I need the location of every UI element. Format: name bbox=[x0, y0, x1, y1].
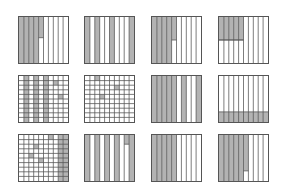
grid-model-g8 bbox=[218, 75, 269, 123]
grid-model-g3 bbox=[151, 16, 202, 64]
grid-model-g2 bbox=[84, 16, 135, 64]
grid-model-g6 bbox=[84, 75, 135, 123]
grid-model-g10 bbox=[84, 134, 135, 182]
grid-model-g1 bbox=[18, 16, 69, 64]
grid-model-g11 bbox=[151, 134, 202, 182]
grid-model-g12 bbox=[218, 134, 269, 182]
grid-model-g7 bbox=[151, 75, 202, 123]
grid-model-g9 bbox=[18, 134, 69, 182]
grid-model-g4 bbox=[218, 16, 269, 64]
grid-model-g5 bbox=[18, 75, 69, 123]
